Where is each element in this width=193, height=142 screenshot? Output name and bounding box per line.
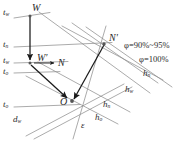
temp-label-tw-top: tw: [3, 8, 9, 18]
enthalpy-label-hn-lower: hn: [103, 100, 110, 110]
temp-label-to-mid-sub: o: [6, 70, 9, 76]
marker-Wprime-point: [29, 62, 32, 65]
marker-Nprime-point: [102, 42, 105, 45]
enthalpy-hw-line: [39, 12, 150, 93]
point-label-N: N: [58, 58, 65, 68]
temp-label-to-mid: to: [3, 67, 8, 77]
d-axis-line: [26, 84, 124, 136]
enthalpy-label-hw-right-sub: w: [130, 88, 134, 94]
enthalpy-hn2-line: [38, 62, 130, 112]
arrow-Nprime-to-O: [74, 45, 104, 99]
temp-label-tn-sub: n: [6, 43, 9, 49]
temp-label-to-bottom: to: [3, 100, 8, 110]
d-axis-line-2: [34, 87, 132, 139]
humidity-label-phi-90-95: φ=90%~95%: [124, 41, 169, 50]
axis-label-dw-sub: w: [18, 118, 22, 124]
enthalpy-label-hw-right: hw: [125, 85, 133, 95]
enthalpy-label-ho-lower-sub: o: [100, 116, 103, 122]
enthalpy-label-ho-lower: ho: [95, 113, 102, 123]
humidity-label-phi-100: φ=100%: [139, 55, 169, 64]
enthalpy-label-hn-lower-sub: n: [108, 103, 111, 109]
axis-label-dw: dw: [13, 115, 21, 125]
axis-label-epsilon: ε: [81, 121, 85, 130]
temp-label-tw-prime-sub: w: [6, 59, 10, 65]
point-label-W: W: [32, 3, 40, 13]
point-label-N-prime: N′: [109, 33, 118, 43]
temp-label-tw-top-sub: w: [6, 11, 10, 17]
isotherm-to-mid-line: [14, 72, 60, 73]
marker-W-point: [29, 15, 32, 18]
isotherm-tw-top-line: [14, 13, 50, 19]
temp-label-to-bottom-sub: o: [6, 103, 9, 109]
temp-label-tn: tn: [3, 40, 8, 50]
enthalpy-label-hn-right: hn: [143, 69, 150, 79]
marker-O-point: [70, 99, 74, 103]
point-label-O: O: [60, 97, 67, 107]
point-label-W-prime: W′: [37, 53, 48, 63]
enthalpy-label-hn-right-sub: n: [148, 72, 151, 78]
temp-label-tw-prime: tw: [3, 56, 9, 66]
isotherm-to-bottom-line: [14, 105, 80, 108]
psychrometric-diagram: tw tn tw to to W W′ N N′ O hn hw hn ho φ…: [0, 0, 193, 142]
